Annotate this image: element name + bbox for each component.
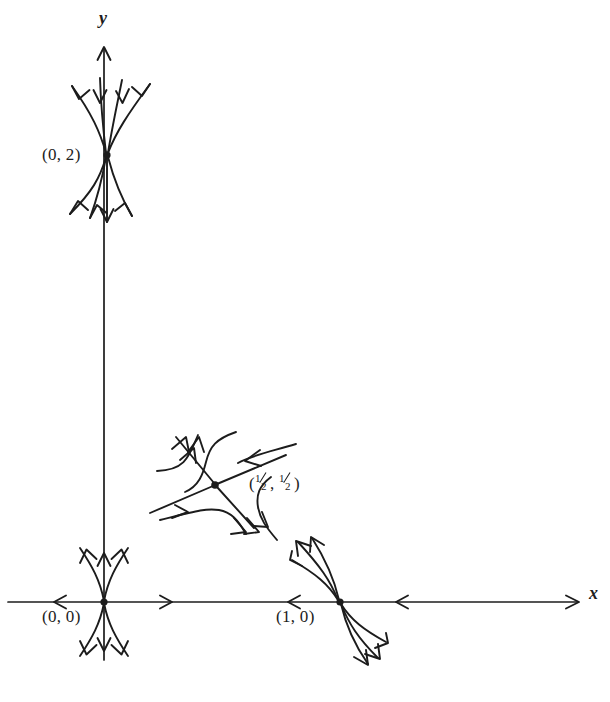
phase-portrait-figure <box>0 0 610 702</box>
origin-point-dot <box>100 598 107 605</box>
node02-point-dot <box>103 151 110 158</box>
sad10-arrow-up-mid <box>290 551 302 566</box>
axes-group <box>8 47 579 660</box>
sadhh-traj-upper-right <box>185 432 236 492</box>
half-half-comma: , <box>270 474 279 493</box>
equilibrium-zero-two <box>70 78 150 222</box>
node02-branch-up-inner-r <box>108 80 122 153</box>
sad10-point-dot <box>336 598 343 605</box>
sadhh-traj-upper-left <box>157 435 198 471</box>
fraction-one-half-second: 12 <box>279 475 294 492</box>
sad10-branch-up-left-mid <box>292 560 338 600</box>
second-fraction-denominator: 2 <box>285 480 291 492</box>
equilibrium-one-zero <box>290 537 388 665</box>
equilibrium-label-one-zero: (1, 0) <box>276 607 315 627</box>
sadhh-traj-lower-left <box>160 509 246 534</box>
half-half-close-paren: ) <box>294 474 300 493</box>
equilibrium-label-half-half: (12, 12) <box>249 474 300 494</box>
y-axis-label: y <box>99 8 107 29</box>
first-fraction-denominator: 2 <box>261 480 267 492</box>
fraction-one-half-first: 12 <box>255 475 270 492</box>
sad10-branch-dn-right-mid <box>341 604 386 642</box>
equilibrium-label-zero-two: (0, 2) <box>42 145 81 165</box>
node02-arrow-up-right <box>132 84 150 96</box>
sadhh-arrow-out-se-a <box>231 518 246 534</box>
sadhh-point-dot <box>211 481 219 489</box>
node02-arrow-dn-right <box>115 203 132 216</box>
sad10-branch-up-left-inner <box>312 538 339 600</box>
equilibrium-label-origin: (0, 0) <box>42 607 81 627</box>
node02-arrow-up-left <box>72 86 90 99</box>
x-axis-label: x <box>589 583 598 604</box>
